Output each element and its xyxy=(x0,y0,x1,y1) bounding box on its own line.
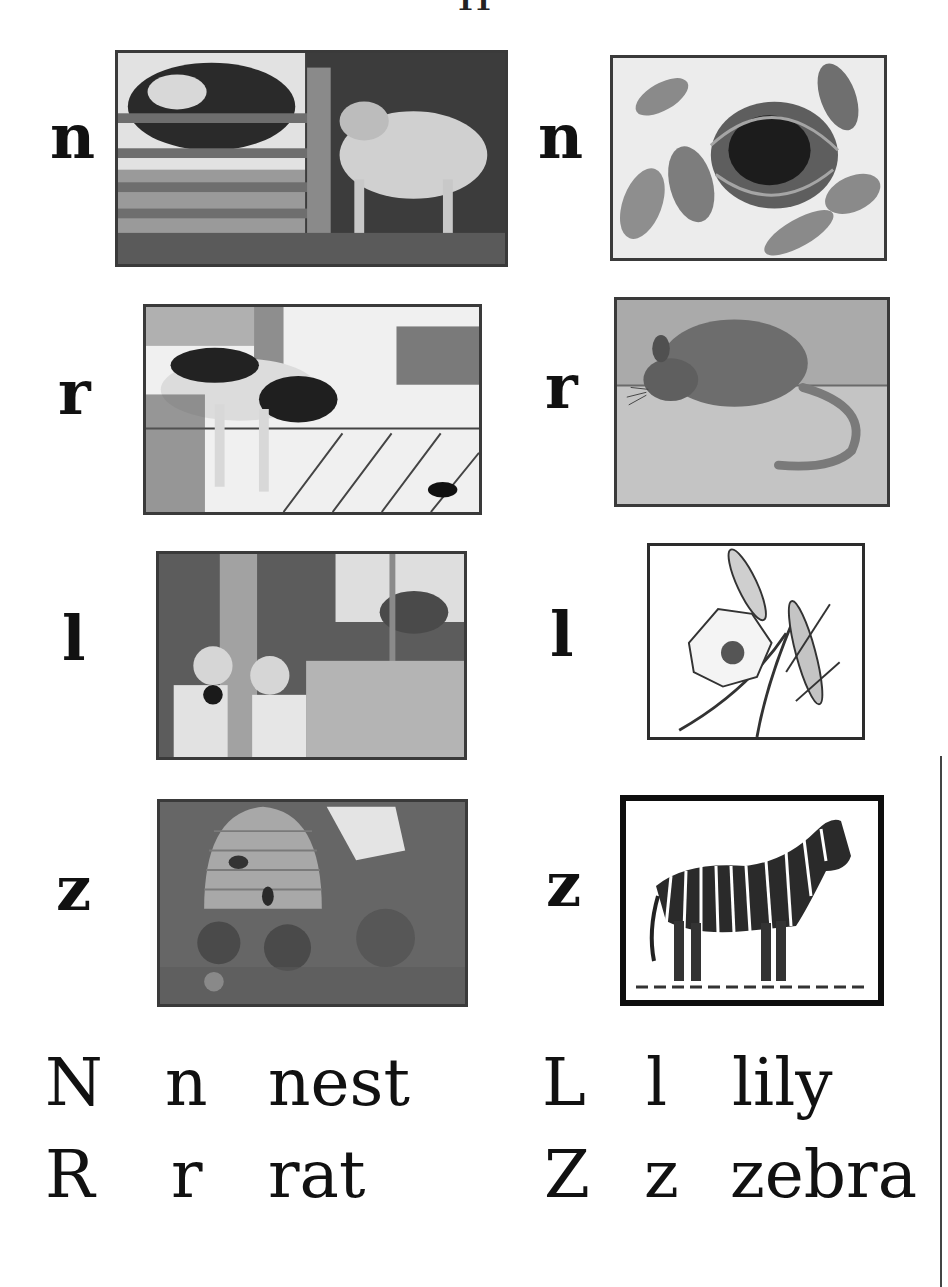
picture-dog xyxy=(143,304,482,515)
picture-lily xyxy=(647,543,865,740)
word-row-rat: R r rat xyxy=(0,1142,520,1212)
word: nest xyxy=(268,1050,410,1116)
word-row-nest: N n nest xyxy=(0,1050,520,1120)
page-edge-rule xyxy=(940,756,942,1287)
beehive-illustration xyxy=(160,802,465,1004)
word: rat xyxy=(268,1142,365,1208)
uppercase-letter: R xyxy=(45,1142,95,1208)
letter-label-r-left: r xyxy=(58,362,91,424)
letter-label-z-left: z xyxy=(56,858,91,920)
uppercase-letter: Z xyxy=(544,1142,590,1208)
letter-label-l-right: l xyxy=(550,604,574,666)
letter-label-l-left: l xyxy=(62,608,86,670)
children-illustration xyxy=(159,554,464,757)
lowercase-letter: l xyxy=(646,1050,667,1116)
calf-illustration xyxy=(118,53,505,264)
lowercase-letter: n xyxy=(165,1050,208,1116)
uppercase-letter: N xyxy=(45,1050,103,1116)
uppercase-letter: L xyxy=(542,1050,586,1116)
lowercase-letter: z xyxy=(644,1142,679,1208)
rat-illustration xyxy=(617,300,887,504)
nest-illustration xyxy=(613,58,884,258)
page-number: 11 xyxy=(0,0,948,16)
letter-label-r-right: r xyxy=(545,356,578,418)
picture-children xyxy=(156,551,467,760)
lily-illustration xyxy=(650,546,862,737)
picture-rat xyxy=(614,297,890,507)
picture-calf xyxy=(115,50,508,267)
picture-zebra xyxy=(620,795,884,1006)
letter-label-n-right: n xyxy=(538,106,583,168)
word-row-zebra: Z z zebra xyxy=(520,1142,940,1212)
word-row-lily: L l lily xyxy=(520,1050,940,1120)
picture-nest xyxy=(610,55,887,261)
lowercase-letter: r xyxy=(171,1142,203,1208)
letter-label-n-left: n xyxy=(50,106,95,168)
zebra-illustration xyxy=(626,801,878,1000)
dog-illustration xyxy=(146,307,479,512)
word: lily xyxy=(732,1050,833,1116)
letter-label-z-right: z xyxy=(546,854,581,916)
word: zebra xyxy=(730,1142,917,1208)
picture-beehive xyxy=(157,799,468,1007)
